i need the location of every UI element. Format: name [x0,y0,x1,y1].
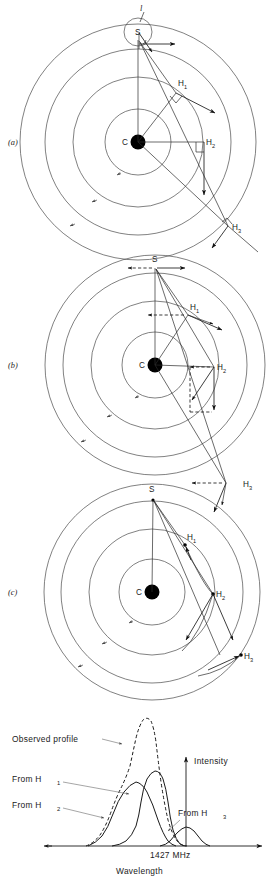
h3-b-component-arrow [222,483,226,505]
sightline-c-s-h1 [154,501,185,545]
cloud-b-h1-subscript: 1 [196,308,199,314]
sightline-s-h1 [139,41,176,93]
sightline-b-s-h1 [156,269,188,315]
sightline-c-s-h3 [154,501,220,655]
sun-top-tick [140,12,144,22]
cloud-h2-subscript: 2 [212,143,215,149]
cloud-b-h3-subscript: 3 [249,485,252,491]
h1-velocity-vector [176,93,215,113]
leader-observed-profile [102,739,122,744]
h1-right-angle-mark [170,96,182,103]
rotation-arrow-1 [117,173,121,175]
annotation-from-h2-subscript: 2 [57,806,60,812]
sightline-b-s-h3 [156,269,226,483]
h1-b-component-vector [188,315,213,324]
leader-from-h1 [63,782,129,794]
rotation-arrow-2 [92,200,97,202]
rotation-b-arrow-3 [81,440,86,442]
radius-b-c-h2 [155,365,214,367]
radius-c-h3 [138,142,228,226]
annotation-observed-profile: Observed profile [12,734,78,744]
rotation-c-arrow-2 [102,642,107,644]
cloud-c-h1-subscript: 1 [193,538,196,544]
intensity-axis-label: Intensity [194,756,228,766]
h3-sightline-extension [228,226,258,252]
leader-from-h2 [63,808,104,818]
h1-b-velocity-vector [188,315,222,330]
sightline-b-s-h2 [156,269,214,367]
annotation-from-h3-subscript: 3 [223,814,226,820]
h1-c-arc-connector [185,545,213,594]
panel-b: (b) S C H 1 H 2 H [8,255,265,512]
h3-c-net-velocity [208,656,239,670]
centre-label-a: C [122,138,128,147]
centre-frequency-label: 1427 MHz [150,850,191,860]
rotation-b-arrow-2 [107,415,112,417]
cloud-c-h3-subscript: 3 [250,657,253,663]
panel-c: (c) S C H 1 H 2 H 3 [8,484,260,700]
sightline-s-h3 [140,42,228,226]
sightline-c-s-h2 [154,501,213,594]
rotation-c-arrow-3 [78,665,83,667]
cloud-h1-subscript: 1 [184,84,187,90]
panel-b-label: (b) [8,361,18,370]
panel-a: (a) S l C H 1 [8,4,258,260]
curve-from-h3 [160,827,210,846]
radius-b-c-h3 [155,365,226,483]
panel-c-label: (c) [8,588,18,597]
cloud-b-h2-subscript: 2 [223,368,226,374]
cloud-c-h2-subscript: 2 [222,595,225,601]
annotation-from-h2: From H [12,800,42,810]
rotation-c-arrow-1 [129,621,133,623]
centre-label-b: C [139,361,145,370]
radio-astronomy-figure: (a) S l C H 1 [0,0,269,880]
rotation-arrow-3 [70,224,75,226]
spectral-profile-chart: Intensity 1427 MHz Wavelength Observed p… [12,718,262,876]
panel-a-label: (a) [8,138,18,147]
wavelength-axis-title: Wavelength [116,866,163,876]
rotation-b-arrow-1 [135,396,139,398]
sun-top-label: l [140,4,143,13]
line-c-sun-to-centre [152,500,153,592]
radius-b-c-h1 [155,315,188,365]
centre-label-c: C [136,588,142,597]
h3-velocity-vector [212,226,228,248]
sun-label-b: S [152,255,158,264]
cloud-h3-subscript: 3 [238,228,241,234]
sun-label-c: S [149,485,155,494]
annotation-from-h3: From H [178,808,208,818]
annotation-from-h1: From H [12,774,42,784]
h2-b-component-arrow [192,367,214,400]
annotation-from-h1-subscript: 1 [57,780,60,786]
sun-label: S [135,28,141,37]
figure-root: (a) S l C H 1 [0,0,269,880]
